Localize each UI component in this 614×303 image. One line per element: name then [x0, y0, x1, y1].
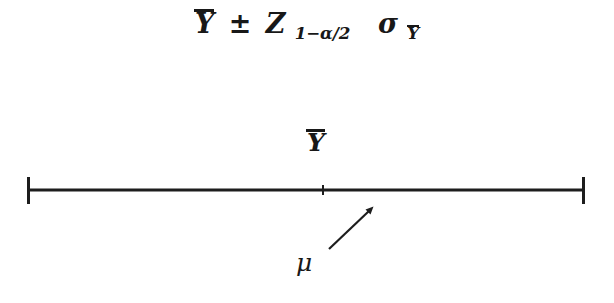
mu-pointer-arrow-shaft: [329, 211, 369, 249]
confidence-interval-figure: Y ± Z 1−α/2 σ Y Y μ: [0, 0, 614, 303]
population-mean-label: μ: [296, 250, 312, 275]
